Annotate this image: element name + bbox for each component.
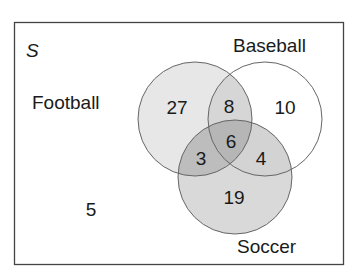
none-count: 5 [86, 199, 97, 220]
baseball-only-count: 10 [274, 97, 295, 118]
football-only-count: 27 [166, 97, 187, 118]
football-soccer-count: 3 [196, 148, 207, 169]
venn-diagram: S Football Baseball Soccer 27 8 10 6 3 4… [0, 0, 362, 274]
baseball-soccer-count: 4 [256, 148, 267, 169]
soccer-label: Soccer [237, 236, 297, 257]
baseball-label: Baseball [233, 35, 306, 56]
football-baseball-count: 8 [224, 96, 235, 117]
universe-label: S [26, 40, 39, 61]
soccer-only-count: 19 [223, 187, 244, 208]
football-label: Football [32, 92, 100, 113]
all-three-count: 6 [226, 131, 237, 152]
